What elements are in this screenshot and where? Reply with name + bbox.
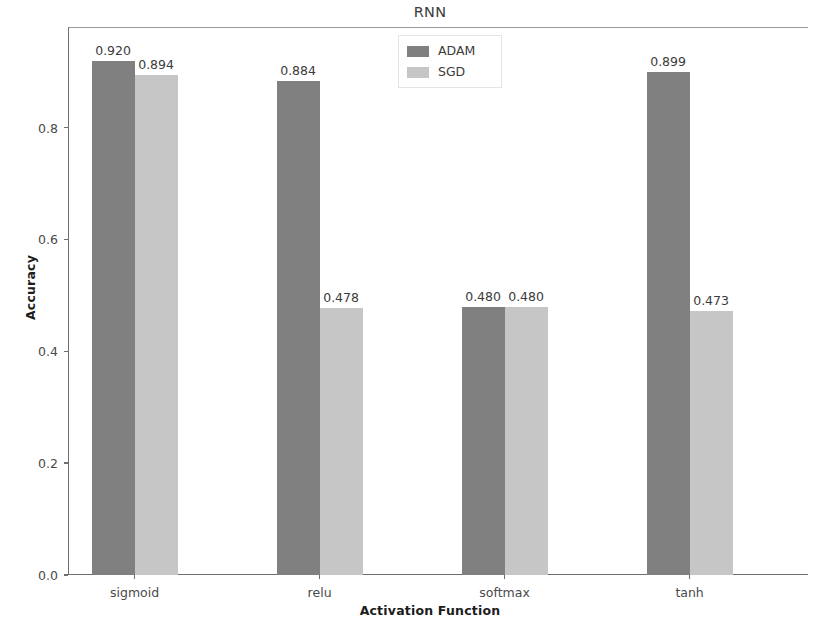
x-tick-mark — [689, 575, 690, 579]
bar-value-label: 0.473 — [693, 293, 729, 308]
x-axis-title: Activation Function — [68, 603, 792, 618]
x-tick-label: softmax — [435, 585, 575, 600]
bar-value-label: 0.920 — [95, 43, 131, 58]
bar-adam-sigmoid — [92, 61, 135, 575]
bar-value-label: 0.899 — [650, 54, 686, 69]
y-axis-title: Accuracy — [23, 238, 38, 338]
legend: ADAMSGD — [398, 35, 502, 88]
x-tick-mark — [134, 575, 135, 579]
x-tick-label: sigmoid — [65, 585, 205, 600]
bar-value-label: 0.884 — [280, 63, 316, 78]
bar-value-label: 0.894 — [138, 57, 174, 72]
x-tick-mark — [319, 575, 320, 579]
bar-sgd-softmax — [505, 307, 548, 575]
bar-adam-tanh — [647, 72, 690, 575]
legend-entry-sgd[interactable]: SGD — [407, 63, 493, 82]
y-tick-label: 0.8 — [0, 120, 58, 135]
bar-sgd-relu — [320, 308, 363, 575]
x-tick-mark — [504, 575, 505, 579]
bar-adam-softmax — [462, 307, 505, 575]
figure-canvas: RNN 0.00.20.40.60.8 Accuracy sigmoidrelu… — [0, 0, 816, 624]
legend-label: ADAM — [438, 45, 475, 58]
y-tick-label: 0.2 — [0, 456, 58, 471]
legend-swatch-icon — [407, 67, 429, 78]
legend-swatch-icon — [407, 46, 429, 57]
y-tick-label: 0.0 — [0, 568, 58, 583]
chart-title: RNN — [68, 4, 792, 20]
bar-value-label: 0.480 — [465, 289, 501, 304]
bar-value-label: 0.480 — [508, 289, 544, 304]
legend-label: SGD — [438, 66, 465, 79]
bar-sgd-sigmoid — [135, 75, 178, 575]
bar-adam-relu — [277, 81, 320, 575]
legend-entry-adam[interactable]: ADAM — [407, 42, 493, 61]
x-tick-label: relu — [250, 585, 390, 600]
bar-sgd-tanh — [690, 311, 733, 575]
bar-value-label: 0.478 — [323, 290, 359, 305]
y-tick-label: 0.4 — [0, 344, 58, 359]
x-tick-label: tanh — [620, 585, 760, 600]
